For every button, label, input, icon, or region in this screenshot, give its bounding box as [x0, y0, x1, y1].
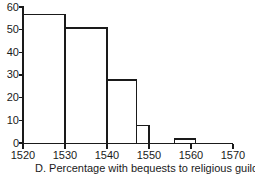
bar-series — [23, 14, 195, 143]
y-axis-tick-labels: 60 50 40 30 20 10 0 — [7, 1, 19, 149]
y-tick-label: 60 — [7, 1, 19, 13]
chart-caption: D. Percentage with bequests to religious… — [35, 162, 255, 174]
histogram-bar — [65, 28, 107, 144]
x-tick-label: 1570 — [221, 149, 245, 161]
x-tick-label: 1560 — [179, 149, 203, 161]
y-tick-label: 30 — [7, 68, 19, 80]
x-tick-label: 1540 — [95, 149, 119, 161]
histogram-bar — [23, 14, 65, 143]
y-tick-label: 20 — [7, 91, 19, 103]
y-tick-label: 10 — [7, 114, 19, 126]
histogram-bar — [136, 125, 149, 143]
x-tick-label: 1520 — [11, 149, 35, 161]
chart-figure: 60 50 40 30 20 10 0 — [0, 0, 255, 176]
x-tick-label: 1530 — [53, 149, 77, 161]
y-tick-label: 50 — [7, 23, 19, 35]
histogram-bar — [107, 80, 136, 143]
x-axis-tick-labels: 1520 1530 1540 1550 1560 1570 — [11, 149, 245, 161]
x-tick-label: 1550 — [137, 149, 161, 161]
y-tick-label: 40 — [7, 46, 19, 58]
x-axis-ticks — [23, 144, 233, 149]
y-tick-label: 0 — [13, 137, 19, 149]
histogram-plot: 60 50 40 30 20 10 0 — [0, 0, 255, 176]
